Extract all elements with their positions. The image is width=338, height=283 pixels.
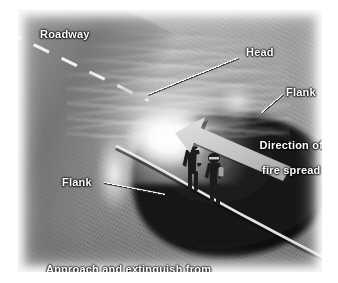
label-flank-right: Flank (286, 86, 316, 99)
photo-plate: Roadway Head Flank Flank Direction of fi… (18, 10, 322, 272)
direction-line-1: Direction of (260, 139, 322, 151)
label-flank-left: Flank (62, 176, 92, 189)
caption-line-1: Approach and extinguish from (46, 262, 211, 272)
caption-text: Approach and extinguish from burned side… (46, 234, 211, 272)
label-direction-of-fire-spread: Direction of fire spread (240, 126, 322, 189)
fire-attack-figure: Roadway Head Flank Flank Direction of fi… (0, 0, 338, 283)
label-head: Head (246, 46, 274, 59)
label-roadway: Roadway (40, 28, 90, 41)
direction-line-2: fire spread (262, 164, 320, 176)
